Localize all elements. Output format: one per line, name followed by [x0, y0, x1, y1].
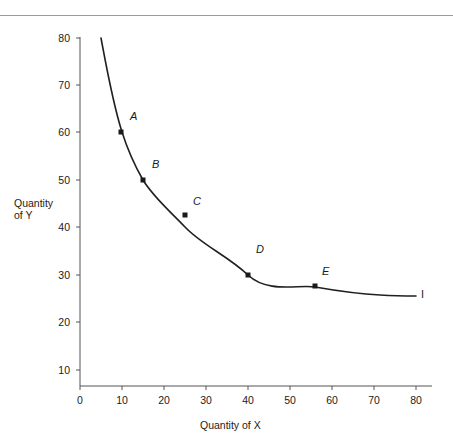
y-tick-label-30: 30: [50, 269, 70, 281]
x-tick-label-70: 70: [362, 394, 386, 406]
y-axis-title-line2: of Y: [14, 209, 53, 221]
point-label-c: C: [193, 195, 201, 207]
y-axis-title-line1: Quantity: [14, 197, 53, 209]
curve-label-i: I: [421, 288, 424, 300]
indifference-curve-path: [101, 38, 416, 296]
data-point-e: [313, 284, 318, 289]
x-tick-label-0: 0: [68, 394, 92, 406]
x-axis-ticks: [80, 386, 416, 390]
y-tick-label-60: 60: [50, 126, 70, 138]
y-tick-label-40: 40: [50, 221, 70, 233]
x-tick-label-60: 60: [320, 394, 344, 406]
y-axis-title: Quantity of Y: [14, 197, 53, 221]
x-tick-label-30: 30: [194, 394, 218, 406]
x-tick-label-20: 20: [152, 394, 176, 406]
x-tick-label-50: 50: [278, 394, 302, 406]
x-tick-label-40: 40: [236, 394, 260, 406]
indifference-curve-figure: 80 70 60 50 40 30 20 10 0 10 20 30 40 50…: [0, 0, 453, 448]
x-tick-label-80: 80: [404, 394, 428, 406]
point-label-d: D: [256, 243, 264, 255]
y-tick-label-70: 70: [50, 79, 70, 91]
data-point-c: [183, 213, 188, 218]
x-axis-title: Quantity of X: [200, 419, 261, 431]
point-label-a: A: [130, 110, 137, 122]
y-tick-label-50: 50: [50, 174, 70, 186]
point-label-b: B: [152, 158, 159, 170]
y-axis-ticks: [76, 38, 80, 370]
point-label-e: E: [322, 265, 329, 277]
data-point-d: [246, 273, 251, 278]
data-point-markers: [119, 130, 318, 289]
y-tick-label-20: 20: [50, 316, 70, 328]
data-point-a: [119, 130, 124, 135]
y-tick-label-10: 10: [50, 364, 70, 376]
y-tick-label-80: 80: [50, 32, 70, 44]
x-tick-label-10: 10: [110, 394, 134, 406]
data-point-b: [141, 178, 146, 183]
